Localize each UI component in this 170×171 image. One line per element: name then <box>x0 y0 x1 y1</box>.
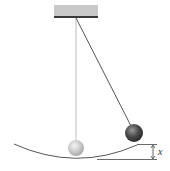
ball-at-rest <box>68 140 84 156</box>
height-dimension: x <box>97 145 163 160</box>
ball-displaced <box>125 124 143 142</box>
pendulum-displaced <box>76 18 143 142</box>
pendulum-diagram: x <box>0 0 170 171</box>
ceiling-support <box>54 5 98 18</box>
string-displaced <box>76 18 131 126</box>
height-label: x <box>157 146 163 157</box>
pendulum-at-rest <box>68 18 84 156</box>
